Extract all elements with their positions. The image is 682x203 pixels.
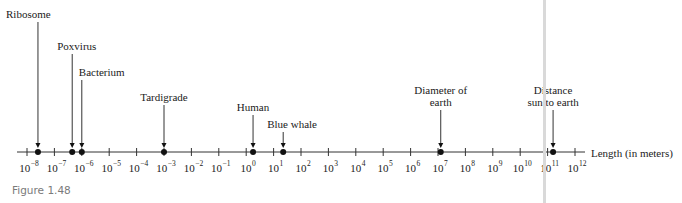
tick-label: 10−7 [47, 159, 66, 174]
point-label-line: Bacterium [79, 66, 125, 78]
point-label: Human [237, 101, 269, 113]
data-point-dot [79, 149, 85, 155]
arrowhead-icon [70, 143, 75, 148]
tick-label: 106 [405, 159, 420, 174]
tick-label: 10−4 [129, 159, 148, 174]
point-label-line: Diameter of [414, 84, 467, 96]
data-point-dot [550, 149, 556, 155]
data-point-dot [438, 149, 444, 155]
arrowhead-icon [162, 143, 167, 148]
data-point-dot [250, 149, 256, 155]
point-label-line: Tardigrade [140, 91, 187, 103]
point-label: Poxvirus [57, 40, 96, 52]
point-label-line: Distance [527, 84, 578, 96]
point-label-line: Ribosome [6, 8, 51, 20]
tick-label: 100 [241, 159, 256, 174]
point-label-line: Blue whale [267, 118, 317, 130]
data-point-dot [280, 149, 286, 155]
tick-label: 1012 [568, 159, 587, 174]
point-label: Diameter ofearth [414, 84, 467, 108]
arrowhead-icon [551, 143, 556, 148]
tick-marks [27, 148, 575, 156]
arrowhead-icon [281, 143, 286, 148]
tick-label: 10−5 [101, 159, 120, 174]
tick-label: 103 [323, 159, 338, 174]
point-label-line: Poxvirus [57, 40, 96, 52]
point-label-line: Human [237, 101, 269, 113]
tick-label: 1010 [513, 159, 532, 174]
data-pointers [35, 22, 556, 155]
tick-label: 107 [432, 159, 447, 174]
tick-label: 10−1 [211, 159, 230, 174]
log-scale-figure: 10−810−710−610−510−410−310−210−110010110… [0, 0, 682, 203]
point-label: Distancesun to earth [527, 84, 578, 108]
point-label: Bacterium [79, 66, 125, 78]
point-label: Tardigrade [140, 91, 187, 103]
figure-caption: Figure 1.48 [12, 184, 71, 196]
tick-label: 10−6 [74, 159, 93, 174]
point-label-line: sun to earth [527, 96, 578, 108]
tick-label: 10−3 [156, 159, 175, 174]
arrowhead-icon [35, 143, 40, 148]
tick-label: 101 [268, 159, 283, 174]
arrowhead-icon [251, 143, 256, 148]
tick-label: 108 [460, 159, 475, 174]
point-label-line: earth [414, 96, 467, 108]
arrowhead-icon [79, 143, 84, 148]
tick-label: 104 [350, 159, 365, 174]
tick-label: 10−2 [184, 159, 203, 174]
data-point-dot [161, 149, 167, 155]
tick-label: 105 [378, 159, 393, 174]
arrowhead-icon [438, 143, 443, 148]
point-label: Ribosome [6, 8, 51, 20]
data-point-dot [35, 149, 41, 155]
tick-label: 109 [487, 159, 502, 174]
tick-label: 102 [295, 159, 310, 174]
point-label: Blue whale [267, 118, 317, 130]
tick-label: 10−8 [19, 159, 38, 174]
data-point-dot [69, 149, 75, 155]
page-gutter-divider [543, 0, 546, 203]
axis-title: Length (in meters) [591, 147, 673, 159]
